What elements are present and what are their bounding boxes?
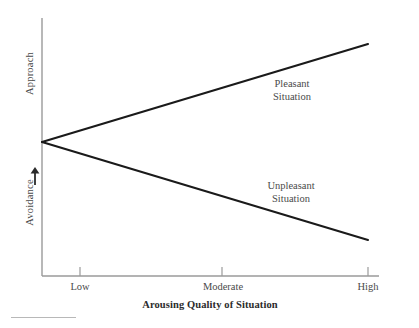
chart-plot-area xyxy=(0,0,419,328)
x-tick-label-high: High xyxy=(346,281,390,292)
chart-container: Approach Avoidance Low Moderate High Aro… xyxy=(0,0,419,328)
series-label-unpleasant-line1: Unpleasant xyxy=(267,180,314,191)
series-label-pleasant-line2: Situation xyxy=(252,90,332,103)
y-axis-lower-label: Avoidance xyxy=(24,166,35,240)
x-axis-title: Arousing Quality of Situation xyxy=(40,299,380,310)
x-tick-label-low: Low xyxy=(58,281,102,292)
y-axis-label-group: Approach Avoidance xyxy=(0,0,40,276)
series-label-pleasant-line1: Pleasant xyxy=(275,78,310,89)
series-label-unpleasant: Unpleasant Situation xyxy=(243,179,339,205)
y-axis-upper-label: Approach xyxy=(24,39,35,109)
series-label-unpleasant-line2: Situation xyxy=(243,192,339,205)
series-label-pleasant: Pleasant Situation xyxy=(252,77,332,103)
bottom-divider-rule xyxy=(11,317,76,318)
x-tick-label-moderate: Moderate xyxy=(192,281,254,292)
